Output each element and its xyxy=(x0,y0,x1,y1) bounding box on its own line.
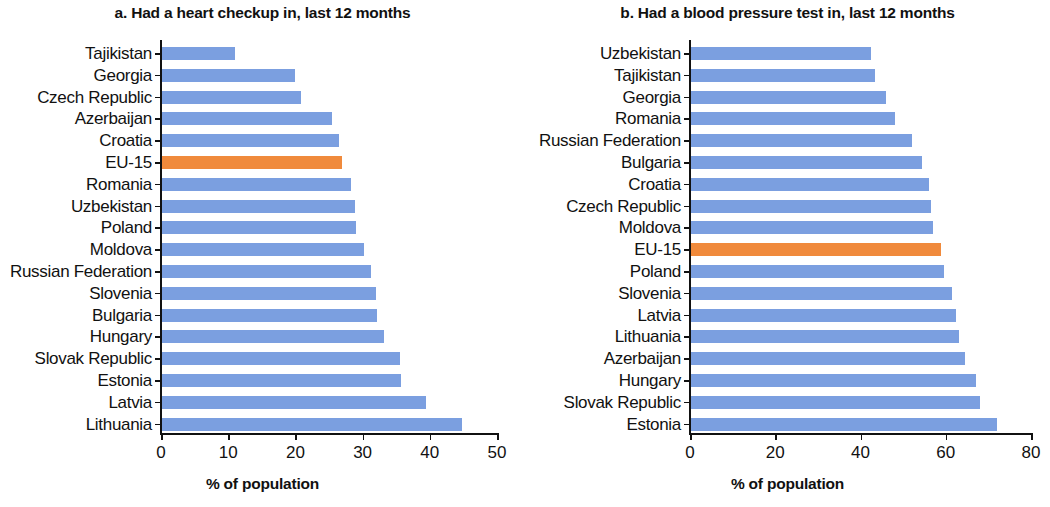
bar xyxy=(690,352,965,365)
panel-b-blood-pressure: b. Had a blood pressure test in, last 12… xyxy=(525,0,1050,507)
bar xyxy=(161,200,355,213)
x-axis-tick-label: 30 xyxy=(353,443,372,463)
bar xyxy=(690,178,929,191)
panel-a-x-axis-title: % of population xyxy=(0,475,525,493)
bar xyxy=(161,396,426,409)
bar xyxy=(690,221,933,234)
category-label: Azerbaijan xyxy=(604,348,681,370)
y-axis-line xyxy=(160,40,162,434)
x-axis-tick-label: 0 xyxy=(156,443,165,463)
category-label: EU-15 xyxy=(105,152,152,174)
panel-a-title: a. Had a heart checkup in, last 12 month… xyxy=(0,4,525,22)
x-axis-tick xyxy=(363,433,365,440)
category-label: Russian Federation xyxy=(10,261,152,283)
x-axis-line xyxy=(160,433,498,435)
x-axis-tick-label: 40 xyxy=(851,443,870,463)
bar-row: Slovak Republic xyxy=(0,348,525,370)
category-label: Bulgaria xyxy=(92,305,152,327)
x-axis-tick-label: 60 xyxy=(936,443,955,463)
bar-row: Poland xyxy=(0,217,525,239)
x-axis-tick xyxy=(690,433,692,440)
bar xyxy=(161,243,364,256)
category-label: Latvia xyxy=(108,392,152,414)
category-label: Lithuania xyxy=(86,414,152,436)
x-axis-tick xyxy=(228,433,230,440)
bar-row: Lithuania xyxy=(0,414,525,436)
bar-row: Estonia xyxy=(525,414,1050,436)
bar-row: Poland xyxy=(525,261,1050,283)
bar-row: Azerbaijan xyxy=(525,348,1050,370)
x-axis-tick xyxy=(497,433,499,440)
x-axis-tick-label: 10 xyxy=(219,443,238,463)
bar xyxy=(690,330,959,343)
bar xyxy=(161,330,384,343)
category-label: Georgia xyxy=(94,65,152,87)
bar-row: Uzbekistan xyxy=(525,43,1050,65)
bar-row: Tajikistan xyxy=(525,65,1050,87)
bar-row: Georgia xyxy=(0,65,525,87)
category-label: Slovenia xyxy=(618,283,681,305)
category-label: Tajikistan xyxy=(85,43,152,65)
bar-row: EU-15 xyxy=(0,152,525,174)
bar xyxy=(161,69,295,82)
bar-row: Hungary xyxy=(525,370,1050,392)
x-axis-tick xyxy=(861,433,863,440)
x-axis-tick-label: 50 xyxy=(488,443,507,463)
bar xyxy=(690,396,980,409)
bar-row: Russian Federation xyxy=(525,130,1050,152)
panel-a-bar-rows: TajikistanGeorgiaCzech RepublicAzerbaija… xyxy=(0,40,525,440)
x-axis-tick-label: 20 xyxy=(286,443,305,463)
bar xyxy=(161,352,400,365)
bar xyxy=(690,69,875,82)
x-axis-tick-label: 0 xyxy=(685,443,694,463)
category-label: Poland xyxy=(101,217,152,239)
bar-highlight xyxy=(161,156,342,169)
category-label: Georgia xyxy=(623,87,681,109)
category-label: Slovak Republic xyxy=(564,392,681,414)
category-label: Uzbekistan xyxy=(71,196,152,218)
x-axis-tick xyxy=(161,433,163,440)
category-label: Bulgaria xyxy=(621,152,681,174)
x-axis-tick-label: 20 xyxy=(766,443,785,463)
panel-a-heart-checkup: a. Had a heart checkup in, last 12 month… xyxy=(0,0,525,507)
bar xyxy=(161,178,351,191)
bar-row: Slovenia xyxy=(525,283,1050,305)
bar-highlight xyxy=(690,243,941,256)
bar xyxy=(161,374,401,387)
bar-row: Bulgaria xyxy=(0,305,525,327)
bar xyxy=(161,418,462,431)
bar-row: Estonia xyxy=(0,370,525,392)
bar xyxy=(690,374,976,387)
category-label: Moldova xyxy=(90,239,152,261)
bar-row: Uzbekistan xyxy=(0,196,525,218)
category-label: Estonia xyxy=(626,414,681,436)
bar-row: Russian Federation xyxy=(0,261,525,283)
bar-row: Latvia xyxy=(0,392,525,414)
category-label: Hungary xyxy=(619,370,681,392)
category-label: Poland xyxy=(630,261,681,283)
bar-row: Romania xyxy=(0,174,525,196)
x-axis-tick-label: 80 xyxy=(1022,443,1041,463)
bar-row: Slovak Republic xyxy=(525,392,1050,414)
category-label: Croatia xyxy=(99,130,152,152)
category-label: Hungary xyxy=(90,326,152,348)
bar xyxy=(690,200,931,213)
bar xyxy=(161,221,356,234)
bar xyxy=(161,91,301,104)
bar xyxy=(690,91,886,104)
bar-row: Croatia xyxy=(0,130,525,152)
bar-row: Lithuania xyxy=(525,326,1050,348)
category-label: Croatia xyxy=(628,174,681,196)
figure-two-panel-bar-charts: a. Had a heart checkup in, last 12 month… xyxy=(0,0,1050,507)
category-label: Tajikistan xyxy=(614,65,681,87)
category-label: Azerbaijan xyxy=(75,108,152,130)
category-label: Romania xyxy=(615,108,681,130)
bar-row: Slovenia xyxy=(0,283,525,305)
category-label: Latvia xyxy=(637,305,681,327)
x-axis-tick xyxy=(775,433,777,440)
category-label: Moldova xyxy=(619,217,681,239)
bar xyxy=(161,134,339,147)
bar xyxy=(161,287,376,300)
bar xyxy=(690,112,895,125)
x-axis-tick-label: 40 xyxy=(420,443,439,463)
